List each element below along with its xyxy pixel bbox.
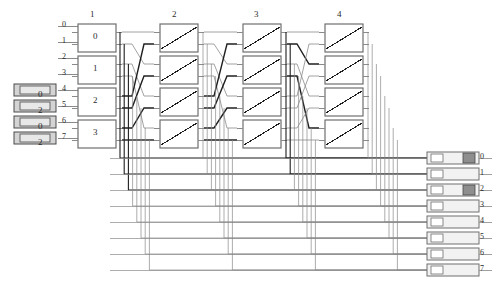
network-diagram: 1 2 3 4 0 1 2 3 4 5 6 7 0 1 2 3 0 2 0 2 … bbox=[0, 0, 499, 284]
input-port-label-5: 5 bbox=[62, 101, 66, 109]
output-port-label-0: 0 bbox=[480, 153, 484, 161]
drop-route-b2-4 bbox=[303, 96, 427, 222]
shuffle-link-s1-3 bbox=[122, 76, 154, 128]
input-port-label-3: 3 bbox=[62, 69, 66, 77]
network-wiring-canvas bbox=[0, 0, 499, 284]
drop-route-b3-2 bbox=[376, 64, 427, 190]
stage-header-1: 1 bbox=[90, 10, 95, 18]
input-port-label-4: 4 bbox=[62, 85, 66, 93]
drop-route-b3-5 bbox=[389, 108, 427, 238]
drop-route-b1-7 bbox=[232, 140, 427, 270]
shuffle-link-s1-6 bbox=[122, 108, 154, 128]
output-buffer-head-5 bbox=[431, 234, 443, 242]
shuffle-link-s3-1 bbox=[287, 44, 319, 64]
input-packet-cell-2 bbox=[20, 118, 50, 126]
input-packet-cell-0 bbox=[20, 86, 50, 94]
input-port-label-6: 6 bbox=[62, 117, 66, 125]
output-port-label-5: 5 bbox=[480, 233, 484, 241]
stage1-switch-label-0: 0 bbox=[93, 32, 98, 40]
output-buffer-head-6 bbox=[431, 250, 443, 258]
stage1-switch-label-3: 3 bbox=[93, 128, 98, 136]
input-packet-cell-1 bbox=[20, 102, 50, 110]
shuffle-link-s1-1 bbox=[122, 44, 154, 64]
input-port-label-1: 1 bbox=[62, 37, 66, 45]
output-buffer-head-4 bbox=[431, 218, 443, 226]
output-buffer-head-1 bbox=[431, 170, 443, 178]
input-packet-label-3: 2 bbox=[38, 138, 43, 146]
drop-route-b3-4 bbox=[385, 96, 427, 222]
drop-route-b2-7 bbox=[315, 140, 427, 270]
shuffle-link-s2-4 bbox=[204, 44, 237, 96]
shuffle-link-s1-4 bbox=[122, 44, 154, 96]
output-port-label-2: 2 bbox=[480, 185, 484, 193]
output-buffer-head-3 bbox=[431, 202, 443, 210]
input-port-label-7: 7 bbox=[62, 133, 66, 141]
drop-route-b3-6 bbox=[393, 128, 427, 254]
output-buffer-head-2 bbox=[431, 186, 443, 194]
output-port-label-3: 3 bbox=[480, 201, 484, 209]
stage1-switch-label-1: 1 bbox=[93, 64, 98, 72]
drop-route-b3-7 bbox=[397, 140, 427, 270]
input-packet-label-1: 2 bbox=[38, 106, 43, 114]
input-packet-label-2: 0 bbox=[38, 122, 43, 130]
drop-route-b0-7 bbox=[149, 140, 427, 270]
input-port-label-2: 2 bbox=[62, 53, 66, 61]
output-buffer-packet-2 bbox=[463, 185, 475, 195]
drop-route-b3-3 bbox=[381, 76, 427, 206]
stage-header-4: 4 bbox=[337, 10, 342, 18]
input-packet-label-0: 0 bbox=[38, 90, 43, 98]
output-port-label-7: 7 bbox=[480, 265, 484, 273]
drop-route-b3-0 bbox=[368, 32, 427, 158]
shuffle-link-s2-1 bbox=[204, 44, 237, 64]
stage1-switch-label-2: 2 bbox=[93, 96, 98, 104]
output-buffer-head-0 bbox=[431, 154, 443, 162]
input-packet-cell-3 bbox=[20, 134, 50, 142]
input-port-label-0: 0 bbox=[62, 21, 66, 29]
shuffle-link-s2-3 bbox=[204, 76, 237, 128]
stage-header-3: 3 bbox=[254, 10, 259, 18]
output-buffer-packet-0 bbox=[463, 153, 475, 163]
output-buffer-head-7 bbox=[431, 266, 443, 274]
shuffle-link-s3-4 bbox=[287, 44, 319, 96]
output-port-label-4: 4 bbox=[480, 217, 484, 225]
shuffle-link-s2-6 bbox=[204, 108, 237, 128]
stage-header-2: 2 bbox=[172, 10, 177, 18]
output-port-label-1: 1 bbox=[480, 169, 484, 177]
output-port-label-6: 6 bbox=[480, 249, 484, 257]
